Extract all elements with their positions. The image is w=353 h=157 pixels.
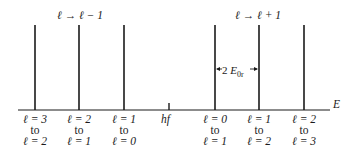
label-from: ℓ: [57, 9, 62, 21]
transition-to: ℓ = 2: [15, 136, 55, 147]
spacing-subscript: 0r: [237, 70, 244, 79]
spacing-symbol: E: [230, 64, 237, 76]
line-label-4: ℓ = 0 to ℓ = 1: [195, 114, 235, 147]
arrowhead-right-icon: [254, 67, 258, 71]
right-group-label: ℓ → ℓ + 1: [235, 9, 281, 21]
transition-to: ℓ = 1: [59, 136, 99, 147]
label-to: ℓ + 1: [257, 9, 281, 21]
transition-to: ℓ = 2: [239, 136, 279, 147]
line-label-5: ℓ = 1 to ℓ = 2: [239, 114, 279, 147]
label-to: ℓ − 1: [79, 9, 103, 21]
arrow-icon: →: [65, 9, 77, 21]
arrowhead-left-icon: [216, 67, 220, 71]
arrow-icon: →: [243, 9, 255, 21]
line-label-1: ℓ = 3 to ℓ = 2: [15, 114, 55, 147]
left-group-label: ℓ → ℓ − 1: [57, 9, 103, 21]
label-from: ℓ: [235, 9, 240, 21]
transition-to: ℓ = 1: [195, 136, 235, 147]
axis-label: E: [333, 98, 340, 110]
spacing-prefix: 2: [222, 64, 230, 76]
line-label-3: ℓ = 1 to ℓ = 0: [104, 114, 144, 147]
transition-to: ℓ = 3: [284, 136, 324, 147]
line-label-2: ℓ = 2 to ℓ = 1: [59, 114, 99, 147]
spacing-label: 2 E0r: [222, 64, 244, 79]
transition-to: ℓ = 0: [104, 136, 144, 147]
line-label-6: ℓ = 2 to ℓ = 3: [284, 114, 324, 147]
hf-label: hf: [161, 113, 170, 125]
